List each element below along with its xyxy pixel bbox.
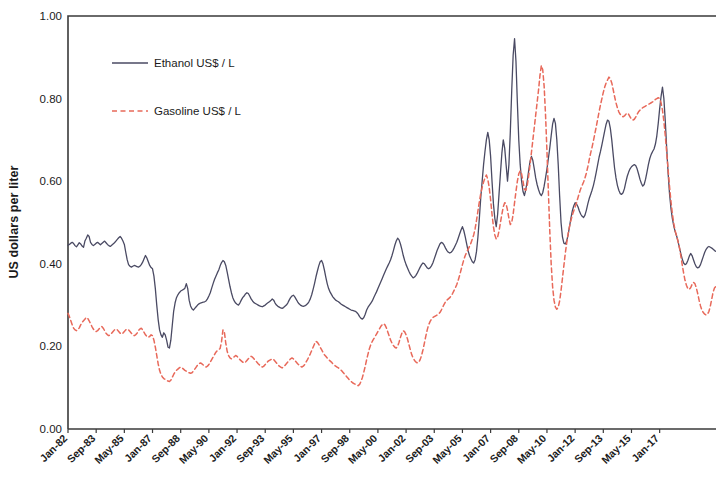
y-axis-title-text: US dollars per liter bbox=[7, 165, 21, 278]
y-tick-label: 1.00 bbox=[40, 10, 62, 22]
legend-label-ethanol: Ethanol US$ / L bbox=[154, 57, 235, 69]
y-tick-label: 0.20 bbox=[40, 340, 62, 352]
y-axis-title: US dollars per liter bbox=[7, 165, 21, 278]
y-tick-label: 0.60 bbox=[40, 175, 62, 187]
legend-label-gasoline: Gasoline US$ / L bbox=[154, 105, 242, 117]
y-tick-label: 0.40 bbox=[40, 258, 62, 270]
chart-canvas: US dollars per liter 0.000.200.400.600.8… bbox=[0, 0, 716, 480]
chart-background bbox=[0, 0, 716, 480]
ethanol-gasoline-price-chart: US dollars per liter 0.000.200.400.600.8… bbox=[0, 0, 716, 480]
y-tick-label: 0.80 bbox=[40, 93, 62, 105]
